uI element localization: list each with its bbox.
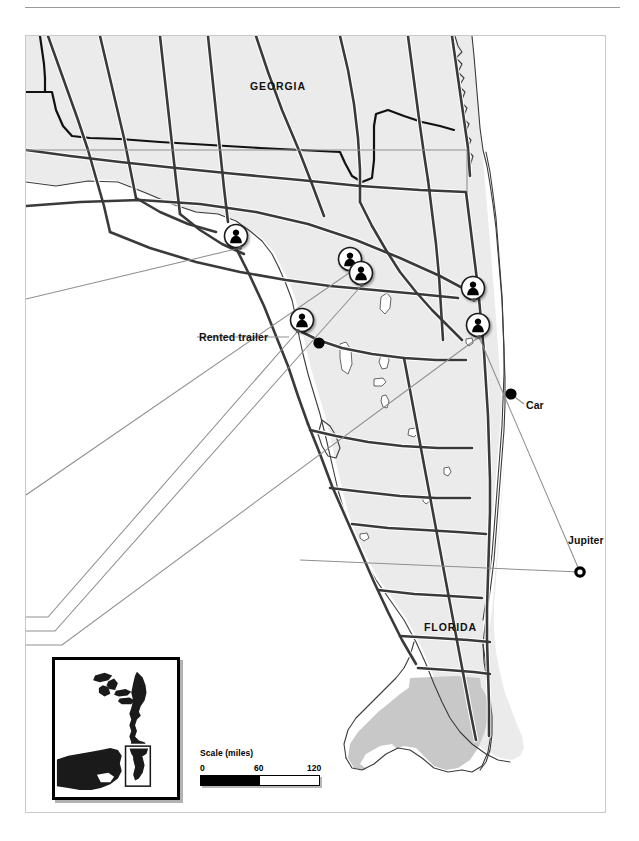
locator-inset [52, 657, 180, 800]
scale-tick-row: 0 60 120 [200, 763, 322, 775]
state-label-georgia: GEORGIA [250, 80, 306, 92]
scale-bar [200, 775, 320, 786]
scale-tick-60: 60 [254, 763, 263, 773]
place-label-jupiter: Jupiter [568, 534, 604, 546]
place-label-rented-trailer: Rented trailer [199, 331, 268, 343]
state-label-florida: FLORIDA [424, 621, 477, 633]
figure-root: GEORGIA FLORIDA Rented trailer Car Jupit… [0, 0, 639, 841]
locator-inset-graphic [55, 660, 177, 797]
place-label-car: Car [526, 399, 544, 411]
scale-bar-filled-half [201, 776, 260, 785]
scale-bar-group: Scale (miles) 0 60 120 [200, 748, 322, 786]
scale-title: Scale (miles) [200, 748, 322, 758]
scale-tick-120: 120 [307, 763, 321, 773]
page-top-rule [25, 7, 620, 8]
scale-tick-0: 0 [200, 763, 205, 773]
